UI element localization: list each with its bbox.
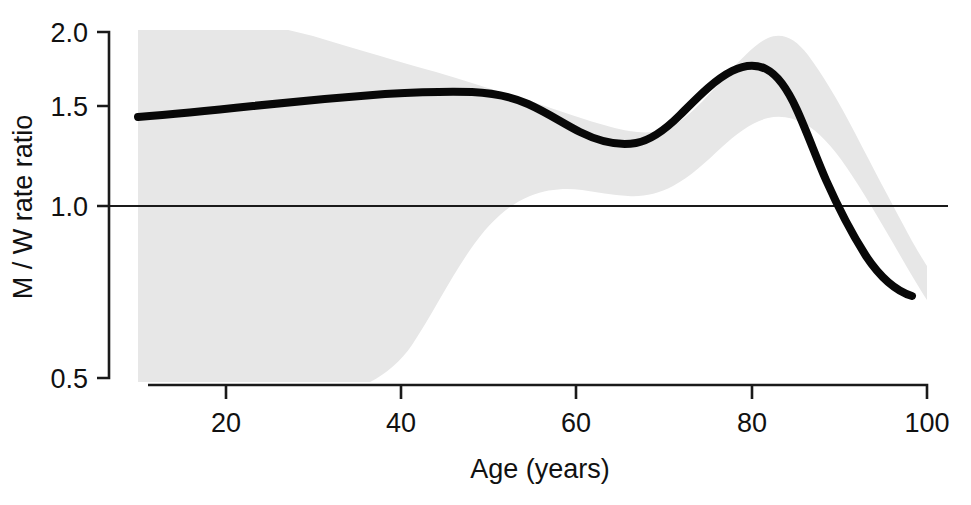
y-tick-label-1-0: 1.0 [50,192,88,222]
x-tick-label-40: 40 [386,408,416,438]
rate-ratio-chart: 2.0 1.5 1.0 0.5 20 40 60 80 100 M / W ra… [0,0,971,505]
x-tick-label-80: 80 [737,408,767,438]
chart-figure: 2.0 1.5 1.0 0.5 20 40 60 80 100 M / W ra… [0,0,971,505]
x-tick-label-20: 20 [211,408,241,438]
y-tick-label-2-0: 2.0 [50,18,88,48]
y-tick-label-1-5: 1.5 [50,92,88,122]
x-axis-title: Age (years) [470,454,610,484]
x-tick-label-60: 60 [561,408,591,438]
x-tick-label-100: 100 [904,408,949,438]
y-axis-title: M / W rate ratio [8,115,38,300]
y-tick-label-0-5: 0.5 [50,364,88,394]
